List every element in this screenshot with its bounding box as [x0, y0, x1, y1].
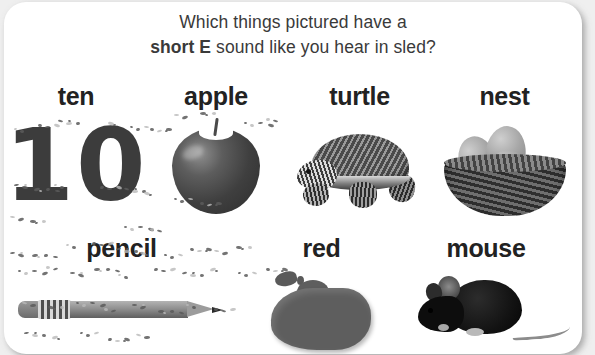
speckle-mark	[90, 302, 95, 305]
speckle-mark	[215, 270, 218, 272]
mouse-hind-foot	[466, 328, 484, 336]
turtle-back-left-leg	[349, 182, 377, 208]
paint-blob-droplet	[273, 270, 298, 289]
question-line-2: short E sound like you hear in sled?	[4, 35, 582, 60]
speckle-mark	[60, 186, 64, 189]
nest-photo-art[interactable]	[432, 112, 577, 228]
mouse-eye	[428, 308, 433, 313]
picture-item-apple[interactable]: apple	[146, 82, 286, 230]
speckle-mark	[55, 190, 60, 192]
mouse-tail	[511, 320, 570, 341]
red-blob-art[interactable]	[249, 264, 394, 354]
item-label-pencil: pencil	[14, 234, 229, 263]
speckle-mark	[130, 227, 135, 231]
speckle-mark	[86, 334, 90, 337]
short-e-emphasis: short E	[150, 37, 211, 57]
nest-twig-rim	[444, 154, 566, 172]
speckle-mark	[230, 308, 236, 312]
speckle-mark	[174, 198, 177, 201]
speckle-mark	[164, 254, 167, 257]
speckle-mark	[37, 256, 40, 258]
speckle-mark	[157, 229, 162, 232]
worksheet-question: Which things pictured have a short E sou…	[4, 10, 582, 60]
pencil-eraser	[18, 301, 40, 318]
speckle-mark	[142, 304, 145, 306]
speckle-mark	[20, 130, 24, 133]
turtle-eye	[306, 169, 311, 174]
item-label-apple: apple	[146, 82, 286, 111]
question-line-1: Which things pictured have a	[179, 12, 407, 32]
mouse-front-paw	[438, 324, 449, 331]
speckle-mark	[134, 250, 138, 253]
number-10-art[interactable]: 10	[6, 112, 146, 228]
question-line-2-rest: sound like you hear in sled?	[211, 37, 436, 57]
number-10-glyph: 10	[4, 116, 147, 216]
speckle-mark	[99, 270, 102, 273]
speckle-mark	[107, 188, 112, 190]
speckle-mark	[57, 338, 60, 340]
speckle-mark	[99, 244, 104, 246]
item-label-nest: nest	[432, 82, 577, 111]
speckle-mark	[42, 220, 46, 223]
pencil-photo-art[interactable]	[14, 264, 229, 354]
speckle-mark	[124, 250, 130, 253]
paint-blob-body	[271, 288, 371, 350]
mouse-figure	[408, 272, 568, 348]
speckle-mark	[39, 190, 42, 192]
speckle-mark	[241, 248, 244, 251]
speckle-mark	[244, 274, 248, 277]
speckle-mark	[46, 266, 50, 269]
worksheet-screen: Which things pictured have a short E sou…	[0, 0, 595, 355]
speckle-mark	[68, 120, 71, 123]
speckle-mark	[132, 304, 137, 306]
picture-item-ten[interactable]: ten 10	[6, 82, 146, 230]
speckle-mark	[134, 188, 137, 191]
speckle-mark	[115, 340, 120, 342]
speckle-mark	[190, 274, 196, 278]
picture-item-red[interactable]: red	[249, 234, 394, 354]
item-label-mouse: mouse	[396, 234, 576, 263]
speckle-mark	[200, 274, 204, 277]
pencil-figure	[18, 296, 223, 322]
picture-item-nest[interactable]: nest	[432, 82, 577, 230]
paint-blob-figure	[267, 272, 377, 350]
picture-item-mouse[interactable]: mouse	[396, 234, 576, 354]
mouse-photo-art[interactable]	[396, 264, 576, 354]
speckle-mark	[18, 270, 21, 272]
speckle-mark	[130, 126, 133, 128]
speckle-mark	[144, 126, 149, 129]
nest-figure	[444, 124, 566, 218]
speckle-mark	[174, 114, 179, 116]
speckle-mark	[10, 216, 15, 219]
item-label-turtle: turtle	[287, 82, 432, 111]
speckle-mark	[124, 226, 127, 228]
item-label-red: red	[249, 234, 394, 263]
speckle-mark	[32, 270, 37, 272]
pencil-sharpened-taper	[187, 301, 214, 317]
speckle-mark	[238, 272, 242, 275]
turtle-figure	[297, 130, 423, 214]
speckle-mark	[76, 302, 79, 304]
picture-item-turtle[interactable]: turtle	[287, 82, 432, 230]
worksheet-card: Which things pictured have a short E sou…	[4, 2, 582, 354]
turtle-photo-art[interactable]	[287, 112, 432, 228]
